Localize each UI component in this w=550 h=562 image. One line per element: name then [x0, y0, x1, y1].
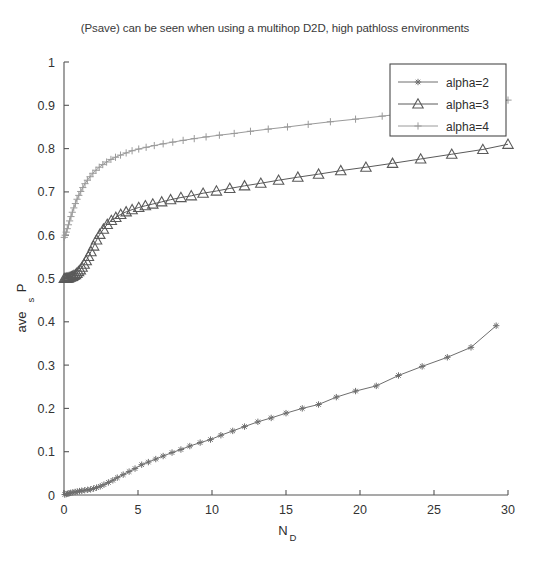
y-tick-label: 0.3 [38, 359, 55, 373]
data-marker [419, 363, 425, 369]
series-line [64, 144, 508, 278]
y-axis-label-tail: ave [14, 312, 29, 333]
data-marker [373, 383, 379, 389]
y-tick-label: 0.8 [38, 142, 55, 156]
data-marker [135, 145, 142, 152]
data-marker [231, 130, 238, 137]
data-marker [180, 137, 187, 144]
data-marker [126, 468, 132, 474]
data-marker [379, 113, 386, 120]
x-tick-label: 0 [61, 503, 68, 517]
data-marker [268, 415, 274, 421]
y-axis-label-main: P [14, 284, 29, 293]
series-alpha-3 [59, 139, 513, 282]
x-tick-label: 25 [427, 503, 441, 517]
y-tick-label: 0 [48, 489, 55, 503]
data-marker [160, 453, 166, 459]
data-marker [169, 449, 175, 455]
y-tick-label: 0.7 [38, 185, 55, 199]
data-marker [70, 204, 77, 211]
data-marker [230, 428, 236, 434]
data-marker [197, 439, 203, 445]
data-marker [395, 372, 401, 378]
x-tick-label: 30 [501, 503, 515, 517]
data-marker [69, 209, 76, 216]
data-marker [127, 204, 137, 213]
data-marker [187, 443, 193, 449]
y-tick-label: 0.2 [38, 402, 55, 416]
y-axis-label-sub: s [25, 297, 36, 302]
y-tick-label: 0.6 [38, 229, 55, 243]
x-axis-label-main: N [278, 523, 287, 538]
legend-label: alpha=4 [446, 120, 489, 134]
legend-label: alpha=3 [446, 98, 489, 112]
data-marker [66, 217, 73, 224]
x-axis-ticks: 051015202530 [61, 490, 515, 517]
figure-container: (Psave) can be seen when using a multiho… [0, 0, 550, 562]
data-marker [114, 474, 120, 480]
data-marker [315, 401, 321, 407]
data-marker [151, 142, 158, 149]
data-marker [444, 354, 450, 360]
data-marker [169, 139, 176, 146]
chart-plot: 00.10.20.30.40.50.60.70.80.91 0510152025… [0, 0, 550, 562]
y-tick-label: 0.1 [38, 445, 55, 459]
data-marker [143, 144, 150, 151]
data-marker [299, 405, 305, 411]
data-marker [503, 139, 513, 148]
y-tick-label: 1 [48, 56, 55, 70]
data-marker [153, 456, 159, 462]
data-marker [145, 459, 151, 465]
data-marker [120, 471, 126, 477]
x-tick-label: 20 [353, 503, 367, 517]
data-marker [191, 135, 198, 142]
data-marker [352, 116, 359, 123]
data-marker [65, 221, 72, 228]
data-marker [327, 118, 334, 125]
data-marker [216, 132, 223, 139]
data-marker [218, 432, 224, 438]
x-tick-label: 15 [279, 503, 293, 517]
data-series-layer [59, 97, 513, 498]
data-marker [202, 133, 209, 140]
data-marker [352, 388, 358, 394]
data-marker [255, 419, 261, 425]
x-axis-label-sub: D [290, 532, 297, 543]
y-tick-label: 0.5 [38, 272, 55, 286]
chart-legend[interactable]: alpha=2alpha=3alpha=4 [390, 64, 506, 136]
data-marker [73, 196, 80, 203]
data-marker [247, 128, 254, 135]
data-marker [283, 410, 289, 416]
x-tick-label: 5 [135, 503, 142, 517]
data-marker [305, 121, 312, 128]
data-marker [160, 140, 167, 147]
data-marker [241, 423, 247, 429]
x-tick-label: 10 [205, 503, 219, 517]
y-tick-label: 0.4 [38, 315, 55, 329]
data-marker [178, 446, 184, 452]
data-marker [333, 394, 339, 400]
legend-label: alpha=2 [446, 76, 489, 90]
series-alpha-2 [62, 322, 500, 497]
data-marker [265, 126, 272, 133]
data-marker [72, 200, 79, 207]
data-marker [75, 192, 82, 199]
data-marker [284, 123, 291, 130]
data-marker [64, 225, 71, 232]
data-marker [207, 436, 213, 442]
data-marker [67, 213, 74, 220]
y-tick-label: 0.9 [38, 99, 55, 113]
data-marker [139, 461, 145, 467]
data-marker [132, 465, 138, 471]
